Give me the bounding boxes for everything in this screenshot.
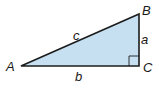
triangle-fill	[21, 14, 139, 66]
side-label-a: a	[141, 32, 148, 47]
vertex-label-c: C	[143, 60, 153, 75]
triangle-diagram: A B C c a b	[0, 0, 159, 91]
side-label-b: b	[75, 69, 82, 84]
side-label-c: c	[73, 28, 80, 43]
vertex-label-a: A	[5, 59, 15, 74]
vertex-label-b: B	[142, 3, 151, 18]
